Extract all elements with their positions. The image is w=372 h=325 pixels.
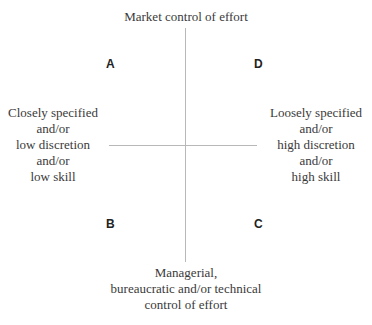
top-axis-label: Market control of effort (86, 9, 286, 25)
horizontal-axis-line (109, 145, 257, 146)
left-axis-label: Closely specified and/or low discretion … (0, 105, 106, 185)
bottom-axis-label: Managerial, bureaucratic and/or technica… (86, 265, 286, 313)
quadrant-label-c: C (254, 217, 263, 231)
quadrant-label-d: D (254, 57, 263, 71)
quadrant-label-a: A (106, 57, 115, 71)
quadrant-label-b: B (106, 217, 115, 231)
right-axis-label: Loosely specified and/or high discretion… (262, 105, 370, 185)
